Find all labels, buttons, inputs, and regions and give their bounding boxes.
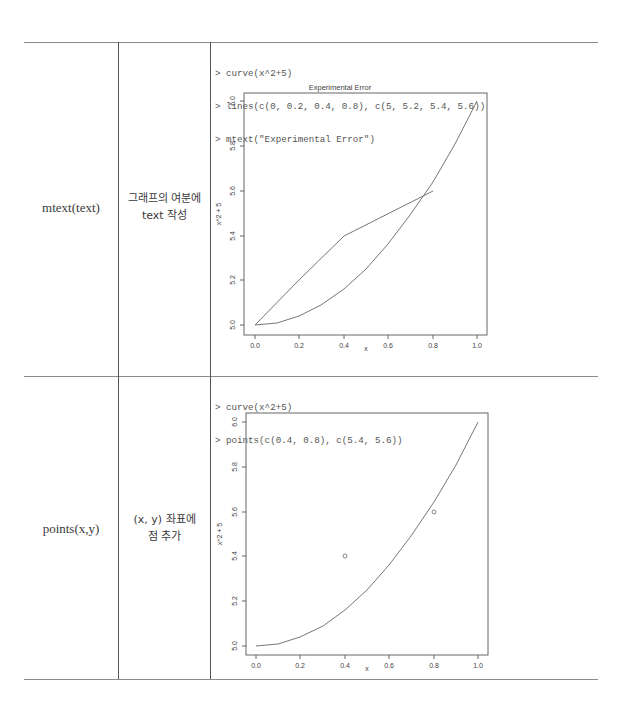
svg-text:5.0: 5.0: [229, 320, 236, 330]
margin-title: Experimental Error: [309, 83, 372, 92]
svg-text:5.8: 5.8: [231, 462, 238, 472]
svg-text:6.0: 6.0: [229, 96, 236, 106]
svg-text:5.0: 5.0: [231, 641, 238, 651]
svg-text:0.8: 0.8: [428, 342, 438, 349]
y-tick-labels: 5.0 5.2 5.4 5.6 5.8 6.0: [229, 96, 236, 330]
column-divider-2: [210, 42, 211, 679]
curve-line: [256, 422, 478, 646]
plot-box: [246, 413, 488, 655]
lines-series: [255, 191, 433, 325]
plot-mtext: Experimental Error 5.0 5.2 5.4 5.6 5.8 6…: [212, 80, 502, 360]
svg-text:5.6: 5.6: [231, 507, 238, 517]
svg-text:0.2: 0.2: [294, 342, 304, 349]
function-name: points(x,y): [24, 520, 118, 537]
svg-text:1.0: 1.0: [473, 662, 483, 669]
code-line: > curve(x^2+5): [215, 68, 485, 79]
description-line: text 작성: [119, 207, 210, 224]
svg-text:1.0: 1.0: [472, 342, 482, 349]
svg-text:0.4: 0.4: [339, 342, 349, 349]
y-axis-ticks: [242, 422, 246, 646]
y-axis-label: x^2 + 5: [216, 523, 223, 546]
description-line: 그래프의 여분에: [119, 190, 210, 207]
function-description: (x, y) 좌표에 점 추가: [119, 511, 210, 545]
svg-text:0.2: 0.2: [295, 662, 305, 669]
y-axis-ticks: [240, 101, 244, 325]
function-name: mtext(text): [24, 199, 118, 216]
y-axis-label: x^2 + 5: [215, 203, 222, 226]
svg-text:5.4: 5.4: [231, 551, 238, 561]
x-axis-ticks: [256, 655, 478, 659]
description-line: 점 추가: [119, 528, 210, 545]
svg-text:0.6: 0.6: [383, 342, 393, 349]
svg-text:6.0: 6.0: [231, 417, 238, 427]
svg-text:5.8: 5.8: [229, 141, 236, 151]
svg-text:5.2: 5.2: [229, 275, 236, 285]
function-description: 그래프의 여분에 text 작성: [119, 190, 210, 224]
plot-points: 5.0 5.2 5.4 5.6 5.8 6.0 x^2 + 5 0.0 0.2 …: [212, 400, 502, 680]
data-point: [343, 554, 347, 558]
svg-text:0.0: 0.0: [251, 662, 261, 669]
y-tick-labels: 5.0 5.2 5.4 5.6 5.8 6.0: [231, 417, 238, 651]
svg-text:0.6: 0.6: [384, 662, 394, 669]
x-axis-ticks: [255, 335, 477, 339]
svg-text:5.2: 5.2: [231, 596, 238, 606]
svg-text:0.8: 0.8: [429, 662, 439, 669]
table-top-border: [24, 42, 598, 43]
svg-text:5.6: 5.6: [229, 186, 236, 196]
description-line: (x, y) 좌표에: [119, 511, 210, 528]
data-point: [432, 510, 436, 514]
svg-text:0.0: 0.0: [250, 342, 260, 349]
column-divider-1: [118, 42, 119, 679]
x-axis-label: x: [364, 345, 368, 352]
svg-text:5.4: 5.4: [229, 231, 236, 241]
x-axis-label: x: [365, 665, 369, 672]
row-divider: [24, 376, 598, 377]
svg-text:0.4: 0.4: [340, 662, 350, 669]
